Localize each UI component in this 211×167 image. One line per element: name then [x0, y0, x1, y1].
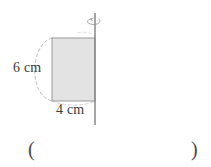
- rotation-arrow-icon: [88, 18, 100, 24]
- width-dimension-label: 4 cm: [56, 103, 84, 117]
- dashed-revolution-arc-top: [76, 32, 95, 38]
- open-parenthesis: (: [28, 135, 35, 163]
- close-parenthesis: ): [191, 135, 198, 163]
- height-dimension-label: 6 cm: [13, 61, 41, 75]
- answer-input[interactable]: [40, 137, 188, 161]
- answer-blank: ( ): [0, 135, 211, 165]
- shaded-rectangle: [52, 38, 95, 101]
